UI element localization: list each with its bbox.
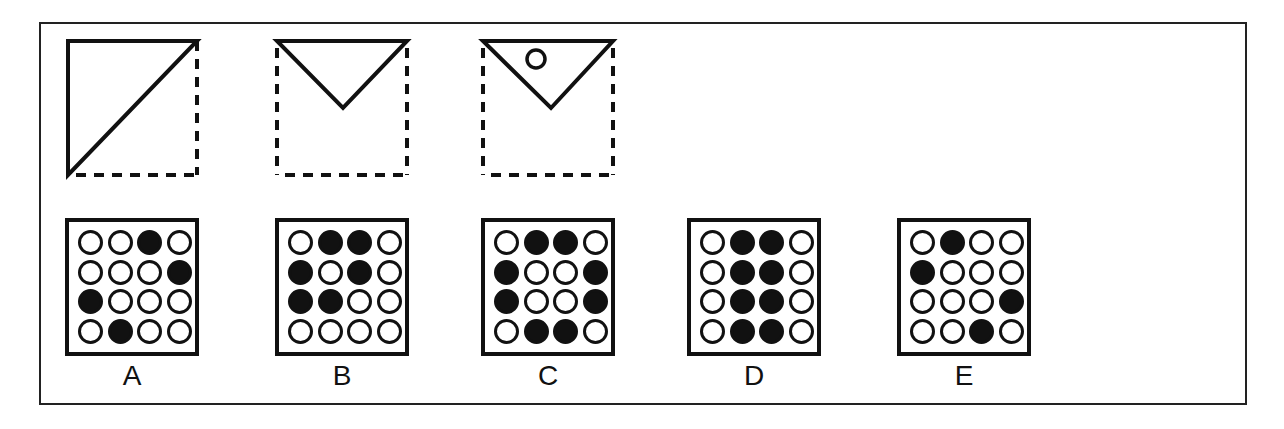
filled-circle-icon (347, 230, 372, 255)
empty-circle-icon (318, 319, 343, 344)
option-label: E (897, 360, 1031, 392)
empty-circle-icon (318, 260, 343, 285)
filled-circle-icon (108, 319, 133, 344)
punched-hole-icon (527, 50, 545, 68)
filled-circle-icon (167, 260, 192, 285)
filled-circle-icon (730, 230, 755, 255)
option-label: A (65, 360, 199, 392)
option-label: D (687, 360, 821, 392)
empty-circle-icon (940, 289, 965, 314)
filled-circle-icon (78, 289, 103, 314)
filled-circle-icon (759, 289, 784, 314)
empty-circle-icon (700, 289, 725, 314)
empty-circle-icon (108, 260, 133, 285)
filled-circle-icon (288, 289, 313, 314)
option-c-box[interactable] (481, 218, 615, 356)
empty-circle-icon (999, 319, 1024, 344)
filled-circle-icon (730, 289, 755, 314)
empty-circle-icon (108, 289, 133, 314)
filled-circle-icon (910, 260, 935, 285)
empty-circle-icon (494, 230, 519, 255)
empty-circle-icon (347, 289, 372, 314)
filled-circle-icon (524, 230, 549, 255)
filled-circle-icon (318, 230, 343, 255)
empty-circle-icon (167, 230, 192, 255)
empty-circle-icon (700, 260, 725, 285)
empty-circle-icon (583, 319, 608, 344)
option-b-box[interactable] (275, 218, 409, 356)
filled-circle-icon (759, 260, 784, 285)
empty-circle-icon (969, 260, 994, 285)
empty-circle-icon (969, 289, 994, 314)
empty-circle-icon (78, 230, 103, 255)
empty-circle-icon (137, 260, 162, 285)
empty-circle-icon (494, 319, 519, 344)
empty-circle-icon (288, 230, 313, 255)
dot-grid (492, 228, 610, 346)
empty-circle-icon (78, 319, 103, 344)
filled-circle-icon (137, 230, 162, 255)
empty-circle-icon (789, 230, 814, 255)
empty-circle-icon (553, 260, 578, 285)
empty-circle-icon (108, 230, 133, 255)
empty-circle-icon (583, 230, 608, 255)
empty-circle-icon (789, 289, 814, 314)
filled-circle-icon (288, 260, 313, 285)
empty-circle-icon (910, 319, 935, 344)
empty-circle-icon (700, 230, 725, 255)
empty-circle-icon (999, 260, 1024, 285)
option-a-box[interactable] (65, 218, 199, 356)
empty-circle-icon (377, 230, 402, 255)
empty-circle-icon (288, 319, 313, 344)
filled-circle-icon (969, 319, 994, 344)
empty-circle-icon (167, 289, 192, 314)
empty-circle-icon (789, 319, 814, 344)
empty-circle-icon (940, 319, 965, 344)
option-label: C (481, 360, 615, 392)
empty-circle-icon (910, 289, 935, 314)
filled-circle-icon (494, 289, 519, 314)
empty-circle-icon (524, 260, 549, 285)
filled-circle-icon (553, 230, 578, 255)
filled-circle-icon (759, 230, 784, 255)
filled-circle-icon (494, 260, 519, 285)
filled-circle-icon (583, 260, 608, 285)
empty-circle-icon (347, 319, 372, 344)
filled-circle-icon (318, 289, 343, 314)
dot-grid (698, 228, 816, 346)
dot-grid (908, 228, 1026, 346)
filled-circle-icon (940, 230, 965, 255)
empty-circle-icon (167, 319, 192, 344)
empty-circle-icon (78, 260, 103, 285)
fold-step-2-figure (270, 38, 415, 183)
empty-circle-icon (700, 319, 725, 344)
filled-circle-icon (347, 260, 372, 285)
empty-circle-icon (524, 289, 549, 314)
empty-circle-icon (377, 260, 402, 285)
filled-circle-icon (524, 319, 549, 344)
fold-step-1-figure (60, 38, 205, 183)
empty-circle-icon (377, 319, 402, 344)
empty-circle-icon (137, 289, 162, 314)
empty-circle-icon (940, 260, 965, 285)
option-d-box[interactable] (687, 218, 821, 356)
empty-circle-icon (137, 319, 162, 344)
empty-circle-icon (999, 230, 1024, 255)
empty-circle-icon (789, 260, 814, 285)
empty-circle-icon (553, 289, 578, 314)
option-e-box[interactable] (897, 218, 1031, 356)
dot-grid (286, 228, 404, 346)
dot-grid (76, 228, 194, 346)
filled-circle-icon (583, 289, 608, 314)
empty-circle-icon (910, 230, 935, 255)
filled-circle-icon (730, 260, 755, 285)
empty-circle-icon (377, 289, 402, 314)
empty-circle-icon (969, 230, 994, 255)
fold-step-3-figure (476, 38, 621, 183)
filled-circle-icon (999, 289, 1024, 314)
option-label: B (275, 360, 409, 392)
filled-circle-icon (759, 319, 784, 344)
filled-circle-icon (730, 319, 755, 344)
puzzle-frame (39, 22, 1247, 405)
filled-circle-icon (553, 319, 578, 344)
